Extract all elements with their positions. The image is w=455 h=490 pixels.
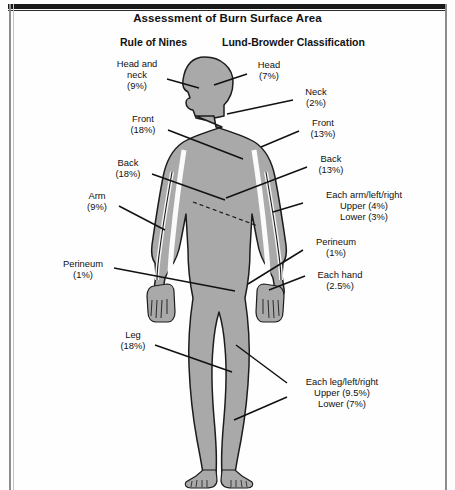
label-right-arm: Each arm/left/right Upper (4%) Lower (3%… [305, 189, 423, 222]
label-left-head-neck: Head and neck (9%) [104, 58, 170, 91]
label-right-hand: Each hand (2.5%) [307, 269, 373, 291]
label-left-back: Back (18%) [104, 157, 152, 179]
label-left-arm: Arm (9%) [75, 190, 119, 212]
label-right-head: Head (7%) [249, 59, 289, 81]
label-left-front: Front (18%) [118, 113, 168, 135]
leader-right-neck [227, 100, 293, 114]
diagram-frame: Assessment of Burn Surface Area Rule of … [0, 0, 455, 490]
label-right-back: Back (13%) [308, 153, 354, 175]
label-right-perineum: Perineum (1%) [305, 236, 367, 258]
body-diagram [0, 0, 455, 490]
label-left-perineum: Perineum (1%) [52, 258, 114, 280]
label-right-front: Front (13%) [300, 117, 346, 139]
label-right-neck: Neck (2%) [296, 86, 336, 108]
leader-right-front [261, 131, 299, 147]
label-left-leg: Leg (18%) [110, 329, 156, 351]
label-right-leg: Each leg/left/right Upper (9.5%) Lower (… [286, 376, 398, 409]
